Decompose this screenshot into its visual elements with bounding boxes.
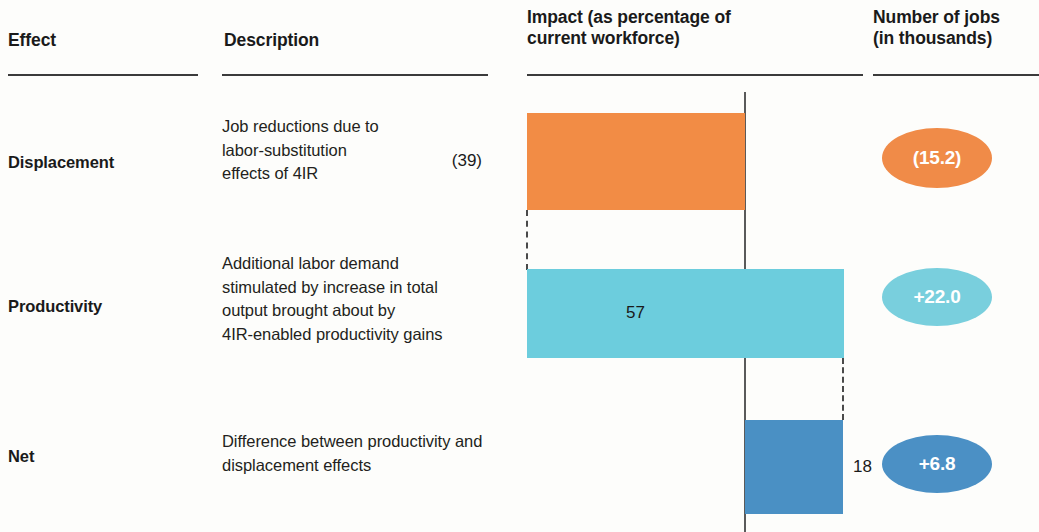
bar-displacement: [527, 113, 745, 210]
column-header-jobs-line2: (in thousands): [873, 28, 992, 49]
row-description-productivity-line3: output brought about by: [222, 299, 395, 323]
header-rule-effect: [8, 74, 198, 76]
column-header-jobs-line1: Number of jobs: [873, 7, 1000, 28]
connector-displacement-to-productivity: [526, 210, 528, 270]
infographic-table: Effect Description Impact (as percentage…: [0, 0, 1039, 532]
row-description-net-line1: Difference between productivity and: [222, 430, 482, 454]
jobs-pill-displacement-label: (15.2): [913, 147, 961, 169]
bar-value-productivity: 57: [626, 303, 645, 323]
row-description-displacement-line3: effects of 4IR: [222, 162, 318, 186]
row-description-productivity-line4: 4IR-enabled productivity gains: [222, 323, 442, 347]
column-header-impact-line2: current workforce): [527, 28, 680, 49]
column-header-impact-line1: Impact (as percentage of: [527, 7, 731, 28]
connector-productivity-to-net: [842, 358, 844, 420]
jobs-pill-net-label: +6.8: [919, 453, 956, 475]
row-description-productivity-line2: stimulated by increase in total: [222, 276, 438, 300]
column-header-description: Description: [224, 30, 319, 51]
row-description-displacement-line1: Job reductions due to: [222, 115, 379, 139]
bar-value-displacement: (39): [452, 151, 482, 171]
jobs-pill-net: +6.8: [882, 435, 992, 493]
jobs-pill-productivity-label: +22.0: [913, 286, 960, 308]
header-rule-jobs: [873, 74, 1039, 76]
column-header-effect: Effect: [8, 30, 56, 51]
jobs-pill-displacement: (15.2): [882, 128, 992, 188]
row-label-productivity: Productivity: [8, 296, 102, 316]
header-rule-impact: [527, 74, 863, 76]
row-label-net: Net: [8, 446, 34, 466]
row-description-productivity-line1: Additional labor demand: [222, 252, 399, 276]
row-label-displacement: Displacement: [8, 152, 114, 172]
jobs-pill-productivity: +22.0: [882, 268, 992, 326]
row-description-net-line2: displacement effects: [222, 454, 371, 478]
row-description-displacement-line2: labor-substitution: [222, 139, 347, 163]
bar-value-net: 18: [853, 457, 872, 477]
bar-net: [745, 420, 843, 514]
bar-productivity: [527, 269, 844, 358]
header-rule-description: [222, 74, 488, 76]
